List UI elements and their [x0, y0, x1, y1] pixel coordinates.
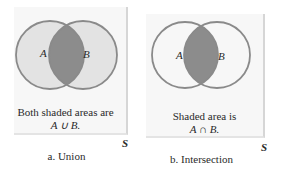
sublabel-intersection: b. Intersection [131, 153, 272, 165]
venn-diagram-union [0, 0, 141, 174]
set-a-label: A [176, 49, 183, 61]
caption-intersection: Shaded area is A ∩ B. [134, 110, 275, 136]
caption-line2: A ∩ B. [134, 123, 275, 136]
sublabel-union: a. Union [0, 150, 137, 162]
caption-union: Both shaded areas are A ∪ B. [0, 106, 136, 132]
caption-line2: A ∪ B. [0, 119, 136, 132]
caption-line1: Shaded area is [134, 110, 275, 123]
caption-line1: Both shaded areas are [0, 106, 136, 119]
set-b-label: B [83, 48, 90, 60]
set-b-label: B [218, 50, 225, 62]
universe-label: S [261, 141, 267, 153]
universe-label: S [122, 137, 128, 149]
set-a-label: A [40, 47, 47, 59]
